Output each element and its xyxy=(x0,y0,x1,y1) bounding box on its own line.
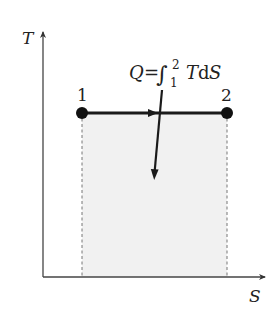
ts-diagram: T S 1 2 Q = ∫ 2 1 T d S xyxy=(0,0,279,324)
svg-text:Q: Q xyxy=(129,62,144,83)
svg-text:S: S xyxy=(209,62,221,83)
svg-text:∫: ∫ xyxy=(156,62,168,87)
state-label-2: 2 xyxy=(221,85,232,105)
state-point-1 xyxy=(76,107,88,119)
shaded-area-q xyxy=(82,113,227,277)
svg-text:2: 2 xyxy=(172,58,180,72)
svg-text:1: 1 xyxy=(170,76,178,90)
svg-text:d: d xyxy=(198,62,210,83)
state-label-1: 1 xyxy=(77,85,88,105)
state-point-2 xyxy=(221,107,233,119)
y-axis-label: T xyxy=(22,28,35,48)
x-axis-label: S xyxy=(249,286,261,306)
heat-integral-formula: Q = ∫ 2 1 T d S xyxy=(129,58,221,90)
